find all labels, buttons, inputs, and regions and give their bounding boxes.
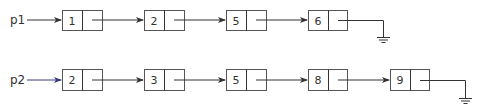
node-value: 5 <box>233 15 240 28</box>
ground-null-icon <box>459 99 472 104</box>
node-value: 9 <box>397 74 404 87</box>
list-p2: p2 2 3 5 8 9 <box>10 70 472 104</box>
node-value: 3 <box>151 74 158 87</box>
node-value: 8 <box>315 74 322 87</box>
node-value: 6 <box>315 15 322 28</box>
linked-list-diagram: p1 1 2 5 6 <box>0 0 484 110</box>
ground-null-icon <box>377 38 390 43</box>
node-value: 2 <box>151 15 158 28</box>
list-p1: p1 1 2 5 6 <box>10 11 390 43</box>
pointer-label-p1: p1 <box>10 13 25 27</box>
node-value: 2 <box>69 74 76 87</box>
node-value: 1 <box>69 15 76 28</box>
pointer-label-p2: p2 <box>10 73 25 87</box>
node-value: 5 <box>233 74 240 87</box>
